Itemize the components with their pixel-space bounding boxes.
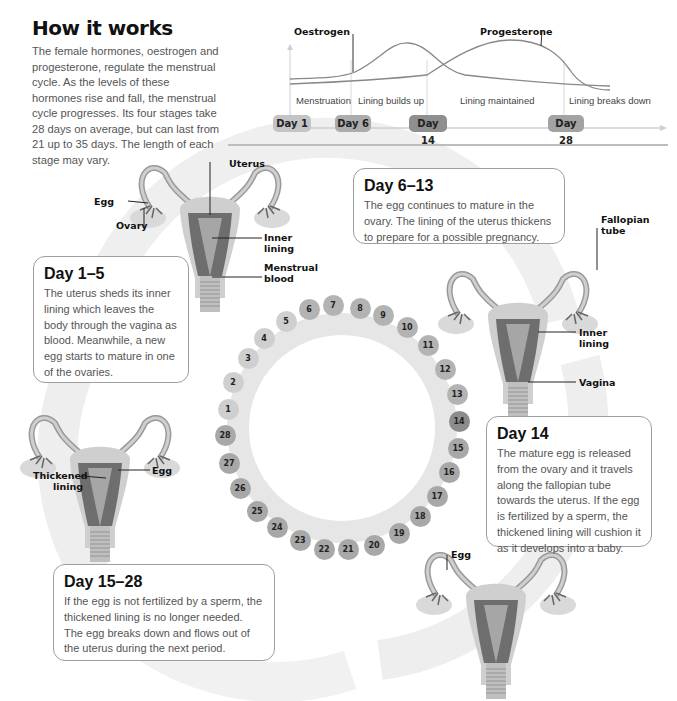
label-inner-lining: Inner lining [579, 327, 619, 349]
label-menstrual-blood: Menstrual blood [264, 262, 314, 284]
day-marker-14: Day 14 [409, 115, 447, 132]
phase-label: Lining builds up [358, 95, 424, 106]
stage-title: Day 6–13 [364, 177, 554, 195]
series-oestrogen-line [290, 43, 610, 86]
hormone-chart: Oestrogen Progesterone Menstruation Lini… [280, 20, 670, 150]
day-marker-1: Day 1 [273, 115, 311, 132]
stage-card-day15-28: Day 15–28 If the egg is not fertilized b… [53, 564, 275, 661]
intro-text: The female hormones, oestrogen and proge… [32, 44, 222, 168]
stage-text: The uterus sheds its inner lining which … [44, 286, 178, 381]
header-divider [228, 144, 668, 146]
stage-text: The mature egg is released from the ovar… [497, 446, 641, 557]
stage-card-day6-13: Day 6–13 The egg continues to mature in … [353, 168, 565, 244]
legend-progesterone: Progesterone [480, 26, 552, 37]
label-uterus: Uterus [229, 158, 265, 169]
stage-title: Day 14 [497, 425, 641, 443]
label-egg: Egg [152, 465, 172, 476]
stage-card-day1-5: Day 1–5 The uterus sheds its inner linin… [33, 256, 189, 383]
stage-text: The egg continues to mature in the ovary… [364, 198, 554, 245]
phase-label: Lining maintained [460, 95, 534, 106]
label-thickened-lining: Thickened lining [33, 470, 83, 492]
phase-label: Menstruation [296, 95, 351, 106]
day-marker-28: Day 28 [548, 115, 584, 132]
stage-title: Day 1–5 [44, 265, 178, 283]
label-vagina: Vagina [579, 377, 615, 388]
label-egg: Egg [94, 196, 114, 207]
stage-text: If the egg is not fertilized by a sperm,… [64, 594, 264, 657]
day-marker-6: Day 6 [335, 115, 371, 132]
stage-card-day14: Day 14 The mature egg is released from t… [486, 416, 652, 547]
label-inner-lining: Inner lining [264, 232, 304, 254]
label-fallopian-tube: Fallopian tube [601, 214, 651, 236]
page-title: How it works [32, 16, 173, 40]
stage-title: Day 15–28 [64, 573, 264, 591]
label-egg: Egg [451, 549, 471, 560]
label-ovary: Ovary [116, 220, 148, 231]
series-progesterone-line [290, 40, 610, 90]
phase-label: Lining breaks down [569, 95, 651, 106]
legend-oestrogen: Oestrogen [294, 26, 350, 37]
